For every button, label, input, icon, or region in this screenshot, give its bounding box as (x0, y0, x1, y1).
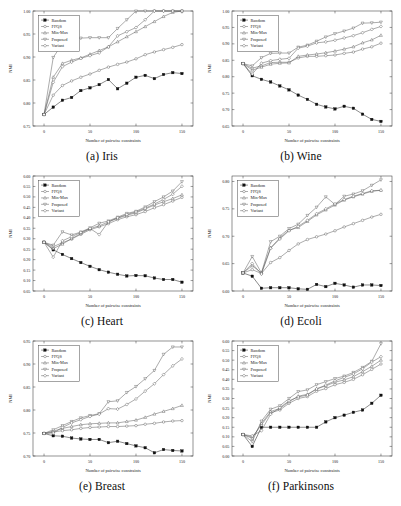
data-point-proposed (135, 385, 138, 388)
y-tick-label: 0.85 (23, 385, 30, 390)
x-axis-label: Number of pairwise constraints (85, 303, 141, 308)
chart-svg-breast: 0.700.750.800.850.900.95050100150Number … (2, 334, 202, 482)
data-point-random (334, 416, 337, 419)
y-tick-label: 0.15 (23, 268, 30, 273)
subplot-wine: 0.650.700.750.800.850.900.951.0005010015… (201, 4, 401, 172)
data-point-min-max (181, 404, 184, 407)
y-tick-label: 0.80 (222, 74, 229, 79)
y-tick-label: 0.15 (222, 425, 229, 430)
data-point-ffqs (380, 363, 383, 366)
x-axis-label: Number of pairwise constraints (284, 303, 340, 308)
data-point-ffqs (70, 429, 73, 432)
data-point-random (107, 271, 110, 274)
data-point-variant (278, 58, 281, 61)
data-point-random (361, 113, 364, 116)
y-tick-label: 0.70 (23, 454, 30, 459)
series-line-random (44, 433, 182, 452)
y-tick-label: 0.55 (222, 348, 229, 353)
data-point-min-max (135, 30, 138, 33)
y-tick-label: 0.75 (222, 91, 229, 96)
data-point-min-max (181, 193, 184, 196)
plot-area-heart: 0.050.100.150.200.250.300.350.400.450.50… (2, 169, 202, 317)
chart-svg-ecoli: 0.600.650.700.750.80050100150Number of p… (201, 169, 401, 317)
data-point-random (162, 73, 165, 76)
data-point-ffqs (352, 378, 355, 381)
data-point-ffqs (361, 373, 364, 376)
data-point-ffqs (343, 381, 346, 384)
data-point-ffqs (153, 422, 156, 425)
subplot-caption-breast: (e) Breast (2, 480, 202, 492)
data-point-random (306, 426, 309, 429)
subplot-caption-parkinsons: (f) Parkinsons (201, 480, 401, 492)
legend-marker-ffqs (243, 190, 246, 193)
y-tick-label: 0.95 (222, 25, 229, 30)
x-tick-label: 150 (378, 459, 384, 464)
data-point-ffqs (181, 196, 184, 199)
data-point-min-max (116, 40, 119, 43)
data-point-variant (52, 256, 55, 259)
legend-label-proposed: Proposed (251, 37, 268, 42)
data-point-random (297, 288, 300, 291)
data-point-ffqs (107, 425, 110, 428)
data-point-ffqs (306, 238, 309, 241)
data-point-random (371, 402, 374, 405)
series-line-random (243, 64, 381, 122)
y-tick-label: 1.00 (222, 9, 229, 14)
data-point-random (361, 284, 364, 287)
x-tick-label: 50 (88, 459, 92, 464)
x-tick-label: 50 (287, 294, 291, 299)
y-tick-label: 0.80 (23, 408, 30, 413)
data-point-ffqs (126, 425, 129, 428)
data-point-ffqs (172, 46, 175, 49)
legend-label-min-max: Min-Max (52, 360, 69, 365)
data-point-ffqs (343, 52, 346, 55)
legend-label-variant: Variant (52, 43, 65, 48)
data-point-ffqs (251, 268, 254, 271)
data-point-random (153, 77, 156, 80)
data-point-variant (324, 40, 327, 43)
y-tick-label: 0.50 (23, 194, 30, 199)
x-tick-label: 0 (242, 129, 244, 134)
data-point-ffqs (334, 54, 337, 57)
data-point-random (371, 284, 374, 287)
data-point-random (126, 442, 129, 445)
y-tick-label: 0.05 (23, 289, 30, 294)
subplot-caption-wine: (b) Wine (201, 150, 401, 162)
data-point-variant (125, 403, 128, 406)
y-tick-label: 0.40 (222, 377, 229, 382)
data-point-random (288, 89, 291, 92)
data-point-random (288, 426, 291, 429)
y-tick-label: 0.45 (222, 367, 229, 372)
data-point-proposed (251, 65, 254, 68)
data-point-random (269, 286, 272, 289)
data-point-random (181, 281, 184, 284)
data-point-ffqs (162, 203, 165, 206)
x-tick-label: 100 (332, 459, 338, 464)
data-point-ffqs (334, 230, 337, 233)
x-tick-label: 100 (332, 294, 338, 299)
y-axis-label: NMI (8, 394, 13, 403)
y-axis-label: NMI (8, 64, 13, 73)
data-point-random (61, 99, 64, 102)
legend-label-variant: Variant (251, 208, 264, 213)
y-tick-label: 0.35 (222, 386, 229, 391)
data-point-random (80, 89, 83, 92)
data-point-ffqs (371, 368, 374, 371)
figure-panel-grid: 0.750.800.850.900.951.00050100150Number … (0, 0, 401, 506)
data-point-proposed (315, 384, 318, 387)
x-tick-label: 100 (133, 294, 139, 299)
x-tick-label: 150 (179, 459, 185, 464)
data-point-ffqs (61, 84, 64, 87)
data-point-variant (361, 31, 364, 34)
data-point-ffqs (315, 55, 318, 58)
chart-svg-heart: 0.050.100.150.200.250.300.350.400.450.50… (2, 169, 202, 317)
data-point-ffqs (61, 429, 64, 432)
data-point-proposed (251, 441, 254, 444)
data-point-random (325, 285, 328, 288)
data-point-random (52, 106, 55, 109)
y-tick-label: 0.25 (23, 247, 30, 252)
data-point-ffqs (315, 236, 318, 239)
data-point-proposed (297, 391, 300, 394)
data-point-random (352, 411, 355, 414)
data-point-random (269, 81, 272, 84)
